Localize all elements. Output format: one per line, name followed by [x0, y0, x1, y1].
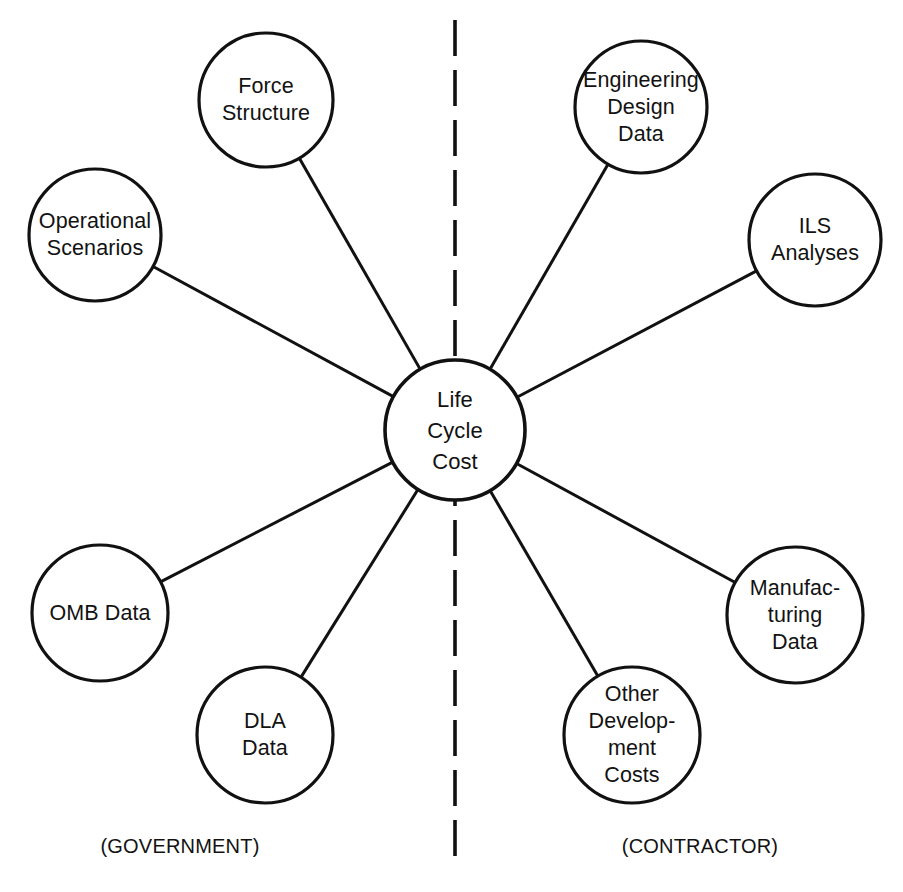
life-cycle-cost-diagram: LifeCycleCostForceStructureOperationalSc…: [0, 0, 903, 892]
node-circle-life-cycle-cost[interactable]: [385, 360, 525, 500]
node-circle-operational-scenarios[interactable]: [29, 169, 161, 301]
spoke-force-structure: [299, 157, 421, 370]
section-caption-contractor: (CONTRACTOR): [622, 834, 778, 858]
node-circle-omb-data[interactable]: [32, 545, 168, 681]
spoke-ils-analyses: [516, 270, 757, 397]
node-circle-manufacturing-data[interactable]: [727, 547, 863, 683]
spoke-omb-data: [160, 462, 394, 583]
section-caption-government: (GOVERNMENT): [100, 834, 259, 858]
spoke-dla-data: [300, 489, 418, 679]
node-circle-ils-analyses[interactable]: [749, 174, 881, 306]
node-circle-dla-data[interactable]: [197, 667, 333, 803]
spoke-operational-scenarios: [152, 266, 394, 397]
diagram-canvas: [0, 0, 903, 892]
node-circle-force-structure[interactable]: [199, 33, 333, 167]
node-circle-other-development-costs[interactable]: [564, 667, 700, 803]
spoke-engineering-design-data: [489, 163, 608, 370]
spoke-other-development-costs: [490, 490, 599, 677]
node-circle-engineering-design-data[interactable]: [575, 41, 707, 173]
spoke-manufacturing-data: [516, 463, 737, 583]
